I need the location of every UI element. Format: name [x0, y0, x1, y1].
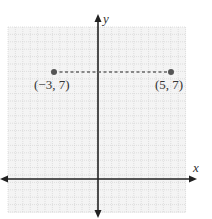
y-axis-up-arrow-icon [95, 14, 102, 22]
x-axis-right-arrow-icon [189, 176, 197, 183]
x-axis-left-arrow-icon [0, 176, 8, 183]
point-a-label: (−3, 7) [34, 77, 70, 92]
y-axis-down-arrow-icon [95, 210, 102, 218]
x-axis-label: x [192, 160, 199, 175]
point-b-label: (5, 7) [155, 77, 183, 92]
y-axis-label: y [101, 11, 109, 26]
coordinate-plane: x y (−3, 7) (5, 7) [0, 0, 212, 219]
point-b [168, 69, 174, 75]
point-a [51, 69, 57, 75]
